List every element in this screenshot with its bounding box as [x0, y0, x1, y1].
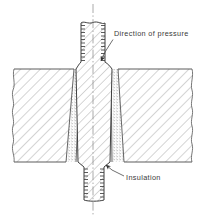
right-plate [112, 65, 202, 167]
insulation-label: Insulation [126, 173, 161, 182]
technical-drawing: Direction of pressure Insulation [0, 0, 208, 220]
direction-of-pressure-label: Direction of pressure [114, 29, 189, 38]
right-plate-hatching [112, 65, 202, 167]
cross-section-figure: Direction of pressure Insulation [0, 0, 208, 220]
